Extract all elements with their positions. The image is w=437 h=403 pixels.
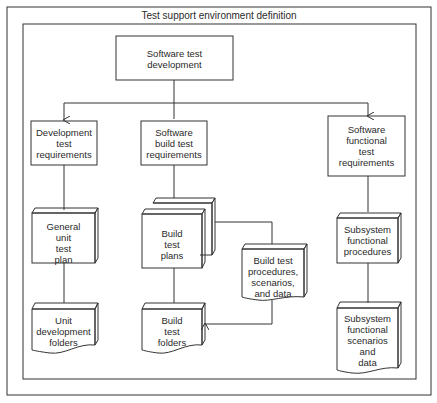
node-unit-development-folders: Unit development folders <box>32 315 95 348</box>
diagram-title: Test support environment definition <box>7 10 431 21</box>
node-build-test-procedures: Build test procedures, scenarios, and da… <box>242 255 304 299</box>
node-development-test-requirements: Development test requirements <box>31 127 97 160</box>
node-build-test-plans: Build test plans <box>142 228 202 261</box>
node-build-test-folders: Build test folders <box>142 315 202 348</box>
node-software-build-test-requirements: Software build test requirements <box>141 127 207 160</box>
node-software-test-development: Software test development <box>116 48 233 70</box>
node-general-unit-test-plan: General unit test plan <box>32 221 95 265</box>
node-software-functional-test-requirements: Software functional test requirements <box>328 124 405 168</box>
node-subsystem-functional-scenarios: Subsystem functional scenarios and data <box>337 313 398 368</box>
node-subsystem-functional-procedures: Subsystem functional procedures <box>337 224 398 257</box>
